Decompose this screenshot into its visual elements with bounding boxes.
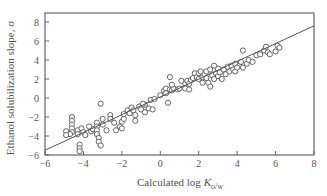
x-axis-label-main: Calculated log <box>137 176 204 188</box>
x-axis-label: Calculated log Ko/w <box>137 176 223 191</box>
x-tick-label: −2 <box>117 158 128 169</box>
x-tick-label: −4 <box>78 158 89 169</box>
y-tick-label: 4 <box>34 55 39 66</box>
data-point <box>77 149 82 154</box>
data-point <box>98 143 103 148</box>
data-point <box>119 126 124 131</box>
data-point <box>104 128 109 133</box>
x-tick-label: 2 <box>196 158 201 169</box>
y-tick-label: −6 <box>28 150 39 161</box>
data-point <box>267 52 272 57</box>
data-point <box>121 116 126 121</box>
data-point <box>112 120 117 125</box>
data-point <box>150 107 155 112</box>
data-point <box>219 76 224 81</box>
data-point <box>142 110 147 115</box>
x-tick-label: 8 <box>312 158 317 169</box>
data-point <box>169 82 174 87</box>
regression-line <box>45 26 314 150</box>
x-tick-label: 4 <box>235 158 240 169</box>
y-tick-label: −4 <box>28 131 39 142</box>
data-point <box>133 113 138 118</box>
data-point <box>83 132 88 137</box>
x-axis-label-subscript: o/w <box>211 182 223 191</box>
data-point <box>165 100 170 105</box>
y-tick-label: 0 <box>34 93 39 104</box>
x-tick-label: −6 <box>40 158 51 169</box>
data-points <box>64 43 282 154</box>
y-tick-label: −2 <box>28 112 39 123</box>
y-axis-label: Ethanol solubilization slope, σ <box>4 21 16 155</box>
data-point <box>200 80 205 85</box>
data-point <box>250 59 255 64</box>
x-tick-label: 0 <box>158 158 163 169</box>
data-point <box>211 63 216 68</box>
data-point <box>98 101 103 106</box>
data-point <box>208 84 213 89</box>
data-point <box>235 65 240 70</box>
data-point <box>133 118 138 123</box>
data-point <box>187 87 192 92</box>
y-tick-label: 2 <box>34 74 39 85</box>
x-tick-label: 6 <box>273 158 278 169</box>
y-tick-label: 6 <box>34 36 39 47</box>
data-point <box>240 48 245 53</box>
data-point <box>100 116 105 121</box>
data-point <box>64 132 69 137</box>
data-point <box>277 45 282 50</box>
y-tick-label: 8 <box>34 17 39 28</box>
scatter-chart: −6−4−202468−6−4−202468 Ethanol solubiliz… <box>0 0 327 196</box>
data-point <box>167 75 172 80</box>
